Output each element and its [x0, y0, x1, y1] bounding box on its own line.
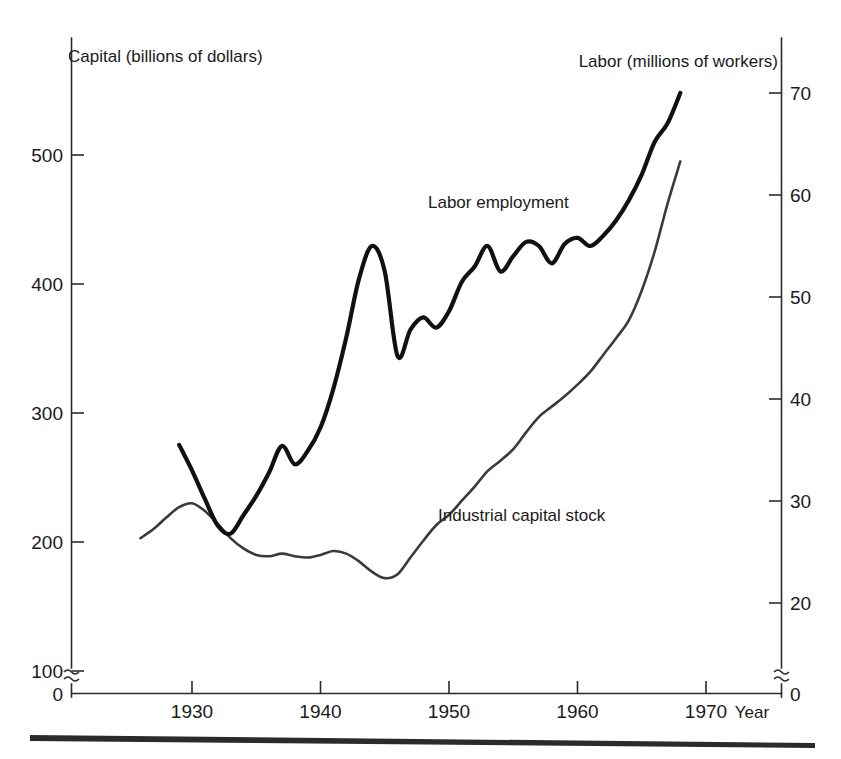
right-tick-label-20: 20	[790, 593, 811, 614]
right-tick-label-50: 50	[790, 287, 811, 308]
chart-background	[0, 0, 841, 759]
right-tick-label-40: 40	[790, 389, 811, 410]
right-tick-label-30: 30	[790, 491, 811, 512]
left-tick-label-100: 100	[31, 661, 63, 682]
right-tick-label-70: 70	[790, 83, 811, 104]
left-axis-title: Capital (billions of dollars)	[68, 47, 263, 66]
left-tick-label-400: 400	[31, 274, 63, 295]
right-axis-title: Labor (millions of workers)	[579, 52, 778, 71]
x-tick-label-1950: 1950	[428, 701, 470, 722]
series-label-labor-employment: Labor employment	[428, 193, 569, 212]
left-tick-label-200: 200	[31, 532, 63, 553]
chart-figure: 500 400 300 200 100 0 Capital (billions …	[0, 0, 841, 759]
right-origin-label: 0	[790, 684, 801, 705]
x-tick-label-1970: 1970	[685, 701, 727, 722]
left-origin-label: 0	[52, 684, 63, 705]
x-tick-label-1930: 1930	[171, 701, 213, 722]
chart-svg: 500 400 300 200 100 0 Capital (billions …	[0, 0, 841, 759]
right-tick-label-60: 60	[790, 185, 811, 206]
x-tick-label-1940: 1940	[299, 701, 341, 722]
series-label-industrial-capital-stock: Industrial capital stock	[438, 506, 606, 525]
left-tick-label-500: 500	[31, 145, 63, 166]
left-tick-label-300: 300	[31, 403, 63, 424]
x-axis-title: Year	[735, 703, 770, 722]
x-tick-label-1960: 1960	[556, 701, 598, 722]
